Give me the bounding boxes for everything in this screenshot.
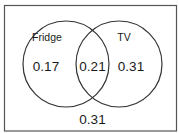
outside-value: 0.31 <box>79 112 105 127</box>
tv-label: TV <box>117 31 130 43</box>
fridge-only-value: 0.17 <box>33 59 59 74</box>
intersection-value: 0.21 <box>79 59 105 74</box>
tv-only-value: 0.31 <box>118 59 144 74</box>
fridge-label: Fridge <box>32 31 62 43</box>
venn-diagram: Fridge TV 0.17 0.21 0.31 0.31 <box>0 0 179 133</box>
